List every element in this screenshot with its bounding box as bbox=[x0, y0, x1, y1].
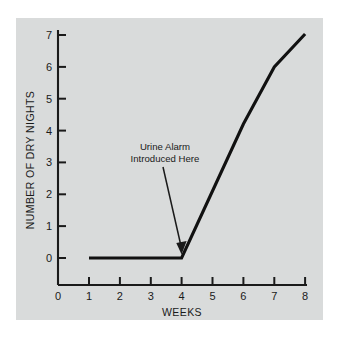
x-axis: 0 1 2 3 4 5 6 7 8 WEEKS bbox=[55, 277, 308, 318]
x-tick-label-5: 5 bbox=[209, 290, 215, 302]
y-tick-label-4: 4 bbox=[46, 125, 52, 137]
y-axis: 7 6 5 4 3 2 1 0 NUMBER OF DRY NIGHTS bbox=[24, 29, 66, 285]
annotation-line-2: Introduced Here bbox=[131, 153, 200, 164]
y-tick-label-1: 1 bbox=[46, 220, 52, 232]
y-tick-label-6: 6 bbox=[46, 61, 52, 73]
x-tick-label-8: 8 bbox=[302, 290, 308, 302]
y-tick-label-3: 3 bbox=[46, 156, 52, 168]
x-tick-label-0: 0 bbox=[55, 290, 61, 302]
x-tick-label-1: 1 bbox=[86, 290, 92, 302]
data-line bbox=[89, 34, 305, 258]
x-tick-label-2: 2 bbox=[117, 290, 123, 302]
y-tick-label-5: 5 bbox=[46, 93, 52, 105]
y-axis-title: NUMBER OF DRY NIGHTS bbox=[24, 91, 36, 229]
x-tick-label-6: 6 bbox=[240, 290, 246, 302]
annotation-line-1: Urine Alarm bbox=[140, 141, 190, 152]
data-series-dry-nights bbox=[89, 34, 305, 258]
annotation-urine-alarm: Urine Alarm Introduced Here bbox=[131, 141, 200, 255]
chart-svg: 7 6 5 4 3 2 1 0 NUMBER OF DRY NIGHTS 0 1… bbox=[0, 0, 340, 337]
x-axis-title: WEEKS bbox=[162, 306, 202, 318]
x-tick-label-3: 3 bbox=[148, 290, 154, 302]
annotation-arrow-shaft bbox=[163, 167, 181, 246]
x-tick-label-4: 4 bbox=[179, 290, 185, 302]
y-tick-label-0: 0 bbox=[46, 252, 52, 264]
figure-root: 7 6 5 4 3 2 1 0 NUMBER OF DRY NIGHTS 0 1… bbox=[0, 0, 340, 337]
y-tick-label-2: 2 bbox=[46, 188, 52, 200]
y-tick-label-7: 7 bbox=[46, 29, 52, 41]
x-tick-label-7: 7 bbox=[271, 290, 277, 302]
